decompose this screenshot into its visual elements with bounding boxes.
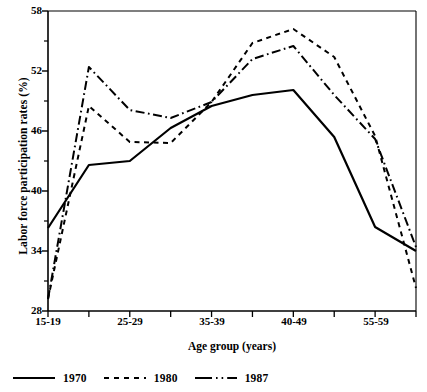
legend-swatch-solid xyxy=(12,372,56,384)
legend-swatch-dotted xyxy=(103,372,147,384)
legend-label-1970: 1970 xyxy=(63,372,87,384)
series-line-1970 xyxy=(48,90,416,251)
figure-container: Labor force participation rates (%) 58 5… xyxy=(0,0,427,392)
legend-item-1987: 1987 xyxy=(194,372,269,384)
series-lines xyxy=(48,29,416,299)
series-line-1987 xyxy=(48,46,416,299)
legend-item-1970: 1970 xyxy=(12,372,87,384)
chart-legend: 1970 1980 1987 xyxy=(12,368,284,388)
legend-label-1987: 1987 xyxy=(245,372,269,384)
plot-area xyxy=(0,0,427,392)
legend-item-1980: 1980 xyxy=(103,372,178,384)
legend-label-1980: 1980 xyxy=(154,372,178,384)
legend-swatch-dashdot xyxy=(194,372,238,384)
